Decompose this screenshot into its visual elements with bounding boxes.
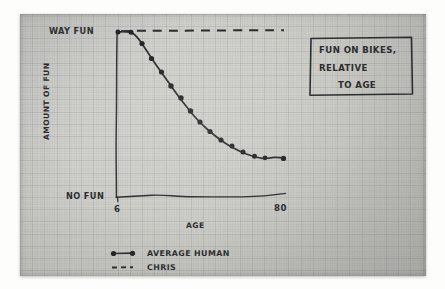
series-average-human-line	[118, 32, 284, 159]
x-axis-max-tick-label: 80	[274, 203, 287, 213]
title-line-3: TO AGE	[338, 80, 376, 90]
legend-item-chris: CHRIS	[112, 263, 176, 272]
title-line-2: RELATIVE	[319, 63, 368, 73]
y-axis-top-label: WAY FUN	[49, 26, 94, 36]
data-point	[168, 83, 173, 88]
y-axis-line	[116, 31, 117, 198]
x-axis-min-tick-label: 6	[114, 204, 120, 214]
series-average-human-markers	[116, 29, 287, 161]
legend-label-chris: CHRIS	[147, 263, 176, 272]
data-point	[207, 129, 212, 134]
data-point	[218, 137, 223, 142]
data-point	[252, 154, 257, 159]
data-point	[159, 69, 164, 74]
x-axis-line	[116, 193, 285, 197]
x-axis-title: AGE	[186, 221, 205, 230]
legend-marker-dot	[111, 251, 116, 256]
y-axis-bottom-label: NO FUN	[66, 191, 104, 201]
data-point	[263, 155, 268, 160]
data-point	[139, 41, 144, 46]
chart-axes	[116, 31, 285, 202]
series-chris-line	[121, 30, 284, 31]
chart-ink-layer: FUN ON BIKES, RELATIVE TO AGE WAY FUN NO…	[0, 0, 445, 289]
title-box: FUN ON BIKES, RELATIVE TO AGE	[310, 37, 413, 95]
screenshot-root: FUN ON BIKES, RELATIVE TO AGE WAY FUN NO…	[0, 0, 445, 289]
legend: AVERAGE HUMAN CHRIS	[111, 249, 230, 272]
title-line-1: FUN ON BIKES,	[319, 45, 396, 55]
data-point	[178, 95, 183, 100]
data-point	[241, 150, 246, 155]
y-axis-title: AMOUNT OF FUN	[42, 63, 51, 140]
data-point	[149, 56, 154, 61]
legend-marker-dot	[130, 251, 135, 256]
data-point	[197, 119, 202, 124]
data-point	[116, 29, 121, 34]
series-chris	[121, 30, 284, 31]
data-point	[188, 108, 193, 113]
data-point	[281, 156, 286, 161]
series-average-human	[116, 29, 287, 161]
legend-item-average-human: AVERAGE HUMAN	[111, 249, 230, 258]
data-point	[129, 30, 134, 35]
data-point	[230, 144, 235, 149]
legend-label-average-human: AVERAGE HUMAN	[147, 249, 230, 258]
